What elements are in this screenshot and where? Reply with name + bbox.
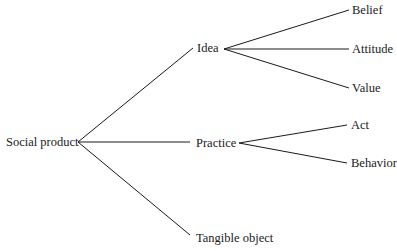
node-social-product: Social product [6,135,79,149]
edge-idea-value [224,49,349,88]
node-act: Act [351,118,369,132]
node-behavior: Behavior [351,156,397,170]
node-idea: Idea [197,41,219,55]
edge-root-idea [78,48,193,142]
node-belief: Belief [352,3,383,17]
node-practice: Practice [196,136,236,150]
node-value: Value [352,81,380,95]
edge-root-tangible [78,142,190,235]
node-tangible-object: Tangible object [196,231,273,245]
edge-practice-behavior [239,143,347,163]
edge-idea-belief [224,10,349,49]
node-attitude: Attitude [352,42,393,56]
tree-lines [0,0,397,251]
edge-practice-act [239,125,347,143]
